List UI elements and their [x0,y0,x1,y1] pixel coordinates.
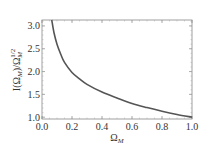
y-tick-label: 3.0 [28,20,41,31]
y-tick-label: 2.0 [28,66,41,77]
x-axis-label: ΩM [110,132,124,145]
chart: 0.00.20.40.60.81.01.01.52.02.53.0 ΩM I(Ω… [0,0,207,154]
axis-ticks [42,20,192,119]
data-series-line [52,20,192,117]
x-tick-label: 0.4 [96,121,109,132]
x-tick-label: 1.0 [186,121,199,132]
plot-frame [42,20,192,119]
y-axis-label: I(ΩM)/ΩM1/2 [9,48,24,91]
y-tick-label: 1.5 [28,89,41,100]
x-tick-label: 0.8 [156,121,169,132]
x-tick-label: 0.6 [126,121,139,132]
y-tick-label: 1.0 [28,112,41,123]
x-tick-label: 0.2 [66,121,79,132]
tick-labels: 0.00.20.40.60.81.01.01.52.02.53.0 [28,20,199,132]
y-tick-label: 2.5 [28,43,41,54]
